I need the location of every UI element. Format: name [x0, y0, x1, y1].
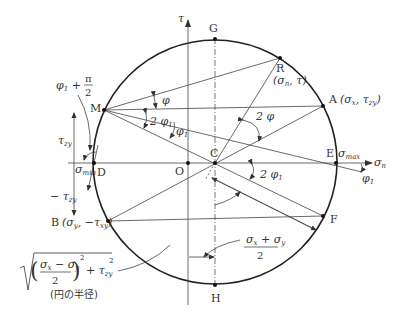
label-b: B	[51, 216, 59, 229]
point-h	[213, 283, 217, 287]
radius-den: 2	[52, 275, 58, 286]
label-o: O	[175, 165, 184, 178]
point-g	[213, 37, 217, 41]
square-exp: 2	[80, 254, 84, 262]
center-formula-den: 2	[257, 250, 263, 261]
tau-square-exp: 2	[109, 257, 113, 265]
point-r	[278, 56, 282, 60]
two-phi-arc	[243, 120, 259, 141]
label-h: H	[211, 292, 221, 305]
tau-axis-label: τ	[178, 12, 185, 25]
label-m: M	[90, 102, 101, 115]
radius-caption: (円の半径)	[50, 288, 98, 300]
point-e	[334, 161, 338, 165]
phi1-pi2-leader	[78, 95, 90, 150]
line-b-f	[108, 216, 323, 221]
phi1-pi2-arc	[84, 152, 96, 160]
label-d: D	[97, 166, 106, 179]
radius-tau-term: + τzy	[86, 264, 114, 278]
center-leader	[204, 240, 240, 257]
two-phi1-arc	[144, 113, 147, 128]
mohr-circle-diagram: G H C O D E F M R A B (σn, τ) (σx, τzy) …	[0, 0, 399, 319]
sigma-max-label: σmax	[338, 147, 360, 161]
neg-tau-zy-label: − τzy	[50, 190, 78, 204]
two-phi1-arc-right	[250, 164, 254, 179]
two-phi1-label-right: 2 φ1	[259, 168, 283, 182]
radius-leader	[118, 245, 170, 271]
phi1-arc-right	[361, 164, 363, 172]
phi-arc	[154, 96, 156, 108]
coord-b: (σy, −τxy)	[62, 216, 112, 230]
phi-label: φ	[162, 94, 170, 107]
sigma-axis-label: σn	[374, 156, 387, 170]
radius-formula: ( σx − σy 2 ) 2 + τzy 2 (円の半径)	[20, 253, 114, 300]
center-formula-num: σx + σy	[246, 233, 286, 247]
offset-arrow-line-2	[212, 178, 316, 230]
point-a	[321, 104, 325, 108]
phi1-label-right: φ1	[362, 172, 374, 186]
phi1-label: φ1	[176, 125, 188, 139]
center-arc	[215, 192, 240, 205]
label-f: F	[330, 213, 338, 226]
line-m-r	[104, 58, 280, 110]
line-m-a	[104, 106, 323, 110]
label-c: C	[210, 147, 218, 160]
label-e: E	[326, 147, 334, 160]
phi1-plus-pi2-label: φ1 +	[56, 79, 81, 93]
two-phi-label: 2 φ	[255, 110, 274, 123]
point-o	[186, 161, 190, 165]
tau-zy-label: τzy	[58, 134, 73, 148]
line-c-r-ext	[205, 163, 215, 180]
two-phi1-label: 2 φ1	[149, 115, 173, 129]
pi-denominator: 2	[85, 87, 91, 98]
point-f	[321, 214, 325, 218]
left-paren: (	[30, 258, 39, 283]
coord-r: (σn, τ)	[273, 74, 307, 88]
label-g: G	[209, 22, 218, 35]
coord-a: (σx, τzy)	[340, 93, 381, 107]
point-c	[213, 161, 217, 165]
point-m	[102, 108, 106, 112]
label-a: A	[328, 93, 338, 106]
diagram-canvas: G H C O D E F M R A B (σn, τ) (σx, τzy) …	[0, 0, 399, 319]
pi-numerator: π	[85, 73, 92, 84]
point-d	[92, 161, 96, 165]
